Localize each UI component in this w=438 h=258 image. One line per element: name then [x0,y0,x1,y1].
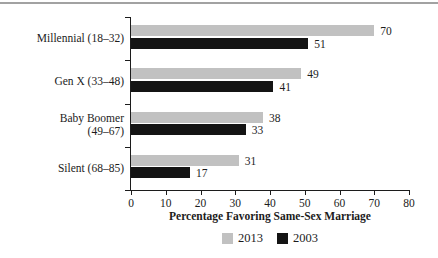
x-axis-tick [270,190,271,195]
y-axis-tick [125,147,131,148]
x-tick-label: 60 [325,197,355,209]
x-axis-tick [201,190,202,195]
value-label: 70 [380,26,392,37]
x-tick-label: 50 [290,197,320,209]
bar-2003 [131,81,273,92]
x-tick-label: 20 [186,197,216,209]
top-rule [0,2,438,4]
y-axis-tick [125,104,131,105]
x-axis-tick [409,190,410,195]
value-label: 38 [269,113,281,124]
x-axis-tick [131,190,132,195]
x-axis-tick [166,190,167,195]
x-axis-tick [235,190,236,195]
y-axis-tick [125,17,131,18]
x-tick-label: 0 [116,197,146,209]
x-axis-title: Percentage Favoring Same-Sex Marriage [131,210,409,222]
y-axis-tick [125,60,131,61]
legend-label: 2013 [238,231,263,246]
legend-item-2013: 2013 [222,231,263,246]
bar-2013 [131,68,301,79]
category-label: Gen X (33–48) [0,60,124,103]
legend-swatch-2013 [222,233,233,244]
x-axis-tick [374,190,375,195]
value-label: 31 [245,156,257,167]
legend-swatch-2003 [277,233,288,244]
bar-2013 [131,25,374,36]
value-label: 49 [307,69,319,80]
x-axis-tick [340,190,341,195]
value-label: 33 [252,125,264,136]
bar-2013 [131,155,239,166]
x-tick-label: 10 [151,197,181,209]
value-label: 51 [314,39,326,50]
legend: 20132003 [131,232,409,245]
legend-item-2003: 2003 [277,231,318,246]
x-tick-label: 70 [359,197,389,209]
category-label: Baby Boomer (49–67) [0,104,124,147]
bar-2013 [131,112,263,123]
category-label: Millennial (18–32) [0,17,124,60]
bar-chart-figure: Millennial (18–32)7051Gen X (33–48)4941B… [0,0,438,258]
bar-2003 [131,167,190,178]
x-tick-label: 40 [255,197,285,209]
bar-2003 [131,38,308,49]
x-axis-tick [305,190,306,195]
legend-label: 2003 [293,231,318,246]
category-label: Silent (68–85) [0,147,124,190]
bar-2003 [131,124,246,135]
x-tick-label: 80 [394,197,424,209]
value-label: 17 [196,168,208,179]
x-tick-label: 30 [220,197,250,209]
value-label: 41 [279,82,291,93]
